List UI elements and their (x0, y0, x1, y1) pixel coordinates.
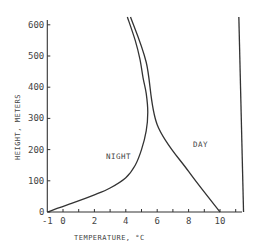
right-boundary-line (239, 17, 244, 212)
y-tick-label: 500 (28, 51, 44, 61)
x-tick-label: 4 (123, 216, 128, 226)
tick-marks: 0100200300400500600-10246810 (28, 20, 236, 226)
x-tick-label: -1 (42, 216, 53, 226)
y-tick-label: 600 (28, 20, 44, 30)
series-lines (47, 17, 243, 212)
night-curve (47, 17, 147, 212)
day-curve (131, 17, 220, 212)
y-axis-title: HEIGHT, METERS (14, 94, 22, 160)
axes (47, 20, 242, 212)
x-tick-label: 8 (186, 216, 191, 226)
y-tick-label: 300 (28, 113, 44, 123)
night-series-label: NIGHT (106, 152, 131, 161)
x-tick-label: 6 (154, 216, 159, 226)
day-series-label: DAY (193, 140, 208, 149)
x-axis-title: TEMPERATURE, °C (74, 234, 145, 242)
y-tick-label: 400 (28, 82, 44, 92)
x-tick-label: 2 (92, 216, 97, 226)
y-tick-label: 100 (28, 176, 44, 186)
temperature-height-chart: 0100200300400500600-10246810 TEMPERATURE… (0, 0, 254, 250)
x-tick-label: 10 (215, 216, 226, 226)
x-tick-label: 0 (60, 216, 65, 226)
y-tick-label: 200 (28, 145, 44, 155)
